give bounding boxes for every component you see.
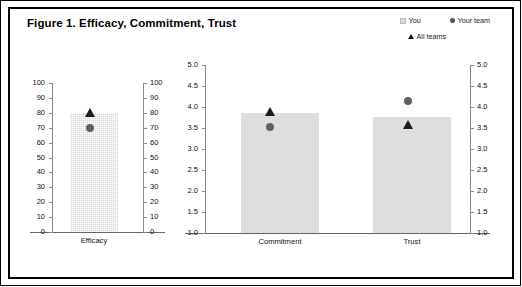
ct-left-tick-label: 4.0 (180, 103, 198, 111)
ct-right-tick (470, 212, 474, 213)
ct-left-tick (202, 233, 206, 234)
ct-right-tick-label: 4.5 (477, 82, 495, 90)
ct-left-tick (202, 191, 206, 192)
ct-right-tick-label: 3.5 (477, 124, 495, 132)
ct-right-tick (470, 149, 474, 150)
ct-left-tick (202, 65, 206, 66)
ct-right-tick-label: 2.5 (477, 166, 495, 174)
ct-right-tick (470, 86, 474, 87)
ct-category-label-commitment: Commitment (240, 237, 320, 246)
ct-right-tick-label: 2.0 (477, 187, 495, 195)
figure-screenshot: Figure 1. Efficacy, Commitment, Trust Yo… (0, 0, 522, 287)
chart-commitment-trust: Commitment Trust 1.01.52.02.53.03.54.04.… (0, 0, 522, 287)
ct-baseline (185, 233, 490, 234)
ct-left-tick-label: 2.5 (180, 166, 198, 174)
ct-right-tick (470, 170, 474, 171)
ct-right-tick (470, 233, 474, 234)
bar-trust (373, 117, 451, 233)
ct-right-tick-label: 4.0 (477, 103, 495, 111)
ct-left-tick (202, 86, 206, 87)
ct-left-tick (202, 170, 206, 171)
ct-left-tick-label: 3.0 (180, 145, 198, 153)
ct-left-tick-label: 5.0 (180, 61, 198, 69)
ct-right-tick (470, 191, 474, 192)
ct-right-tick-label: 1.0 (477, 229, 495, 237)
point-trust-your-team (404, 97, 412, 105)
ct-right-tick-label: 1.5 (477, 208, 495, 216)
ct-right-tick (470, 107, 474, 108)
ct-left-tick (202, 128, 206, 129)
ct-category-label-trust: Trust (372, 237, 452, 246)
ct-left-tick-label: 2.0 (180, 187, 198, 195)
point-commitment-all-teams (265, 107, 275, 116)
ct-right-tick-label: 3.0 (477, 145, 495, 153)
ct-right-tick (470, 128, 474, 129)
ct-left-tick (202, 149, 206, 150)
ct-left-tick-label: 1.5 (180, 208, 198, 216)
point-commitment-your-team (266, 123, 274, 131)
ct-left-tick (202, 212, 206, 213)
ct-left-tick (202, 107, 206, 108)
ct-left-tick-label: 1.0 (180, 229, 198, 237)
ct-left-tick-label: 4.5 (180, 82, 198, 90)
ct-right-tick (470, 65, 474, 66)
ct-left-tick-label: 3.5 (180, 124, 198, 132)
point-trust-all-teams (403, 120, 413, 129)
ct-right-tick-label: 5.0 (477, 61, 495, 69)
bar-commitment (241, 113, 319, 233)
